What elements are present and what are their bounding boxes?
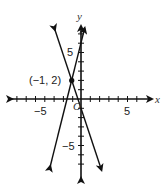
x-axis-label: x (154, 93, 160, 105)
y-tick-label-neg5: −5 (62, 140, 75, 152)
y-axis-label: y (76, 10, 82, 22)
y-tick-label-pos5: 5 (67, 46, 73, 58)
coordinate-plane: (−1, 2) −5 5 5 −5 O x y (0, 0, 168, 188)
origin-label: O (73, 100, 81, 112)
point-label: (−1, 2) (29, 74, 61, 86)
x-tick-label-pos5: 5 (124, 105, 130, 117)
intersection-point (69, 78, 74, 83)
x-tick-label-neg5: −5 (34, 105, 47, 117)
